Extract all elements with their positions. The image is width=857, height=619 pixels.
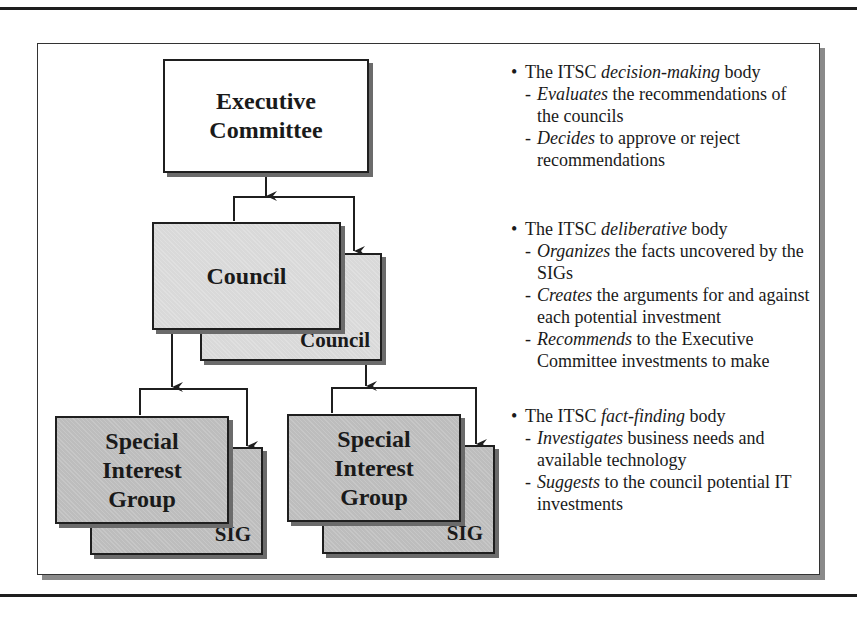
description-heading: The ITSC decision-making body bbox=[511, 61, 811, 83]
executive-label-line2: Committee bbox=[209, 116, 322, 145]
sig1-back-label: SIG bbox=[215, 520, 251, 549]
description-item: -Investigates business needs and availab… bbox=[511, 427, 811, 471]
sig2-back-label: SIG bbox=[447, 519, 483, 548]
bottom-rule bbox=[0, 594, 857, 597]
council-front-label: Council bbox=[206, 262, 286, 291]
executive-committee-node: Executive Committee bbox=[163, 59, 369, 173]
sig2-line3: Group bbox=[334, 483, 414, 512]
description-executive: The ITSC decision-making body -Evaluates… bbox=[511, 61, 811, 171]
sig1-line3: Group bbox=[102, 485, 182, 514]
sig2-line2: Interest bbox=[334, 454, 414, 483]
description-heading: The ITSC fact-finding body bbox=[511, 405, 811, 427]
sig1-line1: Special bbox=[102, 427, 182, 456]
description-item: -Recommends to the Executive Committee i… bbox=[511, 328, 811, 372]
description-sig: The ITSC fact-finding body -Investigates… bbox=[511, 405, 811, 515]
council-front-node: Council bbox=[152, 222, 341, 330]
description-heading: The ITSC deliberative body bbox=[511, 218, 811, 240]
sig1-line2: Interest bbox=[102, 456, 182, 485]
sig1-front-node: Special Interest Group bbox=[55, 416, 229, 524]
description-item: -Decides to approve or reject recommenda… bbox=[511, 127, 811, 171]
description-council: The ITSC deliberative body -Organizes th… bbox=[511, 218, 811, 372]
sig2-front-node: Special Interest Group bbox=[287, 414, 461, 522]
council-back-label: Council bbox=[300, 326, 370, 355]
description-item: -Creates the arguments for and against e… bbox=[511, 284, 811, 328]
description-item: -Evaluates the recommendations of the co… bbox=[511, 83, 811, 127]
sig2-line1: Special bbox=[334, 425, 414, 454]
executive-label-line1: Executive bbox=[209, 87, 322, 116]
description-item: -Suggests to the council potential IT in… bbox=[511, 471, 811, 515]
description-item: -Organizes the facts uncovered by the SI… bbox=[511, 240, 811, 284]
